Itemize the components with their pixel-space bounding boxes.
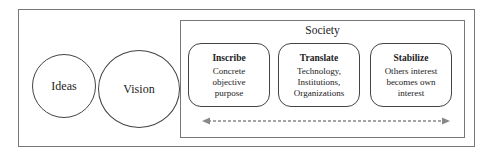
society-label: Society [180, 24, 465, 36]
stage-line: interest [371, 88, 451, 99]
stage-inscribe: Inscribe Concrete objective purpose [188, 43, 270, 107]
stage-line: purpose [189, 88, 269, 99]
stage-line: objective [189, 77, 269, 88]
vision-circle: Vision [98, 50, 180, 128]
bidirectional-arrow-icon [202, 116, 450, 126]
stage-line: Institutions, [279, 77, 359, 88]
stage-line: Concrete [189, 66, 269, 77]
stage-line: becomes own [371, 77, 451, 88]
vision-label: Vision [123, 82, 154, 97]
ideas-circle: Ideas [32, 54, 96, 118]
stage-stabilize: Stabilize Others interest becomes own in… [370, 43, 452, 107]
stage-title: Stabilize [371, 53, 451, 64]
stage-line: Technology, [279, 66, 359, 77]
stage-line: Others interest [371, 66, 451, 77]
stage-title: Translate [279, 53, 359, 64]
stage-line: Organizations [279, 88, 359, 99]
stage-title: Inscribe [189, 53, 269, 64]
ideas-label: Ideas [51, 79, 76, 94]
stage-translate: Translate Technology, Institutions, Orga… [278, 43, 360, 107]
